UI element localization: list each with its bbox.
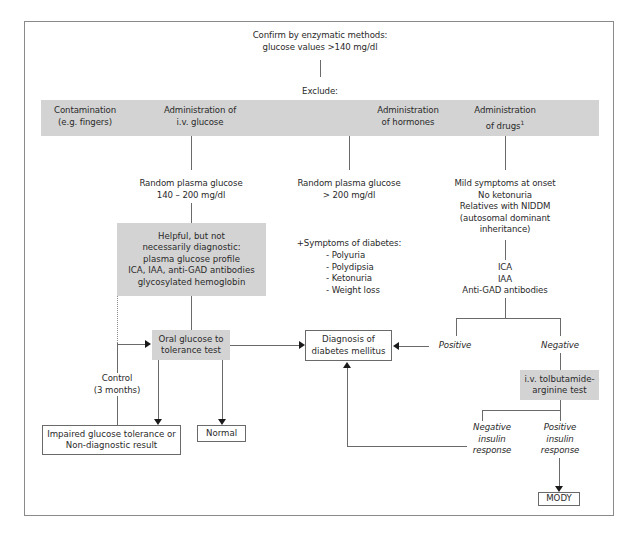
symptom-item: - Weight loss [326,285,406,297]
connector-antibodies-branch [505,298,506,318]
helpful-line: necessarily diagnostic: [142,242,240,254]
confirm-line-1: Confirm by enzymatic methods: [220,30,420,42]
normal-box: Normal [197,425,246,442]
branch-negative [560,318,561,336]
pos-insulin-line: Positive [530,422,590,434]
symptoms-list: - Polyuria - Polydipsia - Ketonuria - We… [326,250,406,296]
exclusion-label: Administration [368,105,448,117]
impaired-label: Impaired glucose tolerance or [47,429,176,441]
ogtt-label: Oral glucose to [158,334,223,346]
diagnosis-label: diabetes mellitus [312,346,386,358]
exclusion-label: (e.g. fingers) [42,117,128,129]
connector-middle [349,136,350,170]
random-glucose-label: Random plasma glucose [131,178,251,190]
criteria-item: Mild symptoms at onset [440,178,570,190]
exclusion-label: Administration of [150,105,250,117]
control-label: Control (3 months) [88,373,146,396]
insulin-branch-left [482,410,483,421]
ogtt-to-diagnosis-line [230,345,299,346]
symptom-item: - Polydipsia [326,262,406,274]
control-text: (3 months) [88,385,146,397]
connector-helpful-ogtt [191,296,192,330]
antibody-item: ICA [450,262,560,274]
helpful-line: Helpful, but not [158,231,225,243]
antibody-item: Anti-GAD antibodies [450,285,560,297]
pos-insulin-line: insulin [530,434,590,446]
exclusion-label: Contamination [42,105,128,117]
control-to-ogtt-line [117,344,146,345]
control-text: Control [88,373,146,385]
connector-top [320,60,321,77]
positive-to-diagnosis-line [399,346,429,347]
negative-to-tolbutamide [560,353,561,370]
pos-insulin-line: response [530,445,590,457]
neg-insulin-line: response [462,445,522,457]
footnote-marker: 1 [520,119,524,126]
symptom-item: - Polyuria [326,250,406,262]
ogtt-to-normal-line [222,360,223,419]
branch-positive [456,318,457,336]
arrow-right-icon [145,340,151,348]
negative-label: Negative [530,340,590,352]
neg-insulin-line: Negative [462,422,522,434]
helpful-line: plasma glucose profile [143,254,240,266]
random-glucose-threshold: > 200 mg/dl [289,190,409,202]
ogtt-box: Oral glucose to tolerance test [152,330,230,360]
connector-left [191,136,192,170]
antibody-item: IAA [450,274,560,286]
random-glucose-range: 140 – 200 mg/dl [131,190,251,202]
connector-left-2 [191,203,192,223]
exclusion-label: Administration [465,105,545,117]
neg-insulin-line: insulin [462,434,522,446]
negative-insulin-response: Negative insulin response [462,422,522,457]
impaired-label: Non-diagnostic result [66,440,158,452]
tolbutamide-label: i.v. tolbutamide- [524,374,594,386]
random-glucose-middle: Random plasma glucose > 200 mg/dl [289,178,409,201]
dotted-connector [117,296,118,343]
exclusion-contamination: Contamination (e.g. fingers) [42,105,128,128]
exclusion-label: of drugs [486,120,521,130]
ogtt-to-impaired-line [158,360,159,419]
exclusion-iv-glucose: Administration of i.v. glucose [150,105,250,128]
pos-insulin-to-mody [559,458,560,486]
arrow-up-icon [343,362,351,368]
ogtt-label: tolerance test [161,345,221,357]
confirm-text: Confirm by enzymatic methods: glucose va… [220,30,420,53]
connector-criteria-antibodies [505,240,506,260]
neg-insulin-return-line [347,446,467,447]
criteria-item: Relatives with NIDDM [440,201,570,213]
exclusion-drugs: Administration of drugs1 [465,105,545,132]
mody-criteria: Mild symptoms at onset No ketonuria Rela… [440,178,570,236]
tolbutamide-box: i.v. tolbutamide- arginine test [520,370,599,400]
helpful-line: glycosylated hemoglobin [138,277,246,289]
positive-insulin-response: Positive insulin response [530,422,590,457]
arrow-left-icon [393,342,399,350]
tolbutamide-label: arginine test [532,385,586,397]
impaired-box: Impaired glucose tolerance or Non-diagno… [42,425,181,455]
insulin-branch-horizontal [482,410,560,411]
positive-label: Positive [430,340,480,352]
diagnosis-label: Diagnosis of [322,334,375,346]
return-up-line [347,368,348,446]
symptoms-title: +Symptoms of diabetes: [289,238,409,250]
random-glucose-label: Random plasma glucose [289,178,409,190]
random-glucose-left: Random plasma glucose 140 – 200 mg/dl [131,178,251,201]
symptom-item: - Ketonuria [326,273,406,285]
branch-horizontal [456,318,561,319]
exclusion-label: of hormones [368,117,448,129]
helpful-line: ICA, IAA, anti-GAD antibodies [128,265,254,277]
exclusion-hormones: Administration of hormones [368,105,448,128]
exclusion-label: i.v. glucose [150,117,250,129]
antibody-list: ICA IAA Anti-GAD antibodies [450,262,560,297]
criteria-item: (autosomal dominant [440,213,570,225]
diagnosis-box: Diagnosis of diabetes mellitus [305,330,392,361]
helpful-box: Helpful, but not necessarily diagnostic:… [117,223,266,296]
mody-box: MODY [538,492,580,506]
connector-right [505,136,506,170]
confirm-line-2: glucose values >140 mg/dl [220,42,420,54]
criteria-item: inheritance) [440,224,570,236]
criteria-item: No ketonuria [440,190,570,202]
exclude-label: Exclude: [270,86,370,98]
tolbutamide-down [560,400,561,421]
